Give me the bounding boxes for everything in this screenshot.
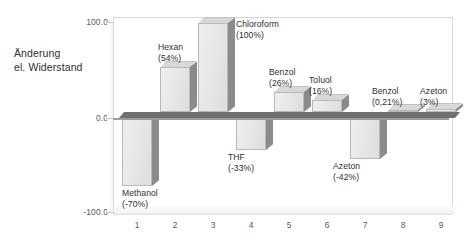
bar-side [380,113,387,159]
bar-7-azeton[interactable] [350,119,380,159]
label-name: Benzol [372,86,399,96]
label-pct: (16%) [309,86,332,97]
x-tick-label-2: 2 [163,220,187,230]
label-name: Azeton [333,161,360,171]
bar-face [312,100,342,112]
x-tick-label-3: 3 [201,220,225,230]
label-pct: (100%) [236,30,279,41]
label-name: THF [228,152,245,162]
label-1-methanol: Methanol (-70%) [122,188,158,210]
bar-chart: Änderung el. Widerstand 100.0 0.0 -100.0 [0,0,465,241]
label-name: Methanol [122,188,158,198]
bars-layer [0,0,465,241]
label-pct: (-42%) [333,172,360,183]
label-pct: (-33%) [228,163,254,174]
bar-2-hexan[interactable] [160,67,190,112]
bar-1-methanol[interactable] [122,119,152,186]
x-tick-label-9: 9 [429,220,453,230]
x-tick-label-4: 4 [239,220,263,230]
label-pct: (0,21%) [372,97,402,108]
label-7-azeton: Azeton (-42%) [333,161,360,183]
bar-face [350,119,380,159]
bar-5-benzol[interactable] [274,92,304,112]
zero-baseline [113,112,455,119]
x-tick-label-8: 8 [391,220,415,230]
label-3-chloroform: Chloroform (100%) [236,19,279,41]
label-name: Benzol [269,67,296,77]
x-tick-label-5: 5 [277,220,301,230]
bar-3-chloroform[interactable] [198,23,228,112]
label-5-benzol: Benzol (26%) [269,67,296,89]
label-9-azeton: Azeton (3%) [420,86,447,108]
label-name: Azeton [420,86,447,96]
label-name: Toluol [309,75,332,85]
bar-side [190,61,197,112]
label-8-benzol: Benzol (0,21%) [372,86,402,108]
label-name: Hexan [158,42,183,52]
label-pct: (3%) [420,97,447,108]
bar-face [236,119,266,150]
bar-face [198,23,228,112]
label-name: Chloroform [236,19,279,29]
x-tick-label-6: 6 [315,220,339,230]
bar-face [160,67,190,112]
x-tick-label-1: 1 [125,220,149,230]
bar-side [152,113,159,186]
label-pct: (26%) [269,78,296,89]
x-tick-label-7: 7 [353,220,377,230]
label-6-toluol: Toluol (16%) [309,75,332,97]
bar-4-thf[interactable] [236,119,266,150]
label-pct: (-70%) [122,199,158,210]
bar-6-toluol[interactable] [312,100,342,112]
bar-face [122,119,152,186]
label-pct: (54%) [158,53,183,64]
label-2-hexan: Hexan (54%) [158,42,183,64]
label-4-thf: THF (-33%) [228,152,254,174]
bar-side [228,17,235,112]
zero-baseline-front [113,118,449,120]
bar-face [274,92,304,112]
